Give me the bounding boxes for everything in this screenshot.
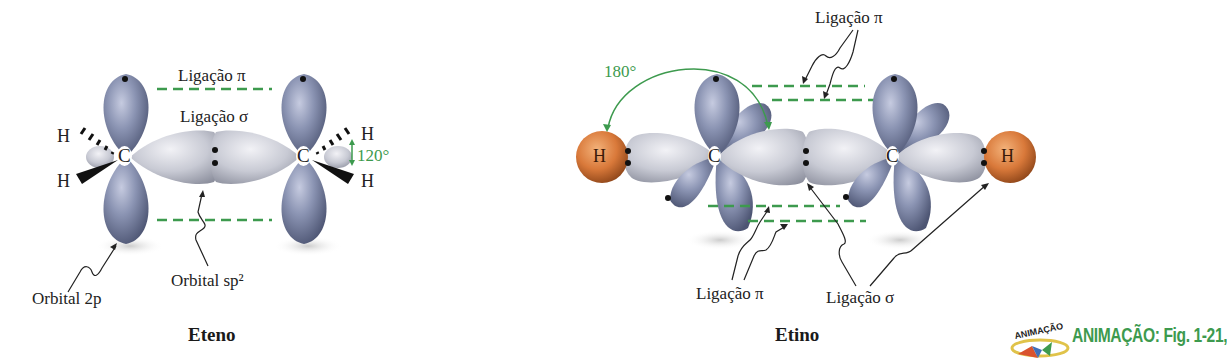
pi-bond-label-bottom: Ligação π xyxy=(696,284,764,304)
pointer-arrow-sp2 xyxy=(196,194,208,266)
pi-bond-label-top: Ligação π xyxy=(815,8,883,28)
animation-link[interactable]: ANIMAÇÃO ANIMAÇÃO: Fig. 1-21, xyxy=(1000,318,1222,360)
orbital-sp2-label: Orbital sp² xyxy=(171,271,244,291)
ethene-caption: Eteno xyxy=(188,324,236,346)
hydrogen-label: H xyxy=(57,171,70,192)
angle-label: 180° xyxy=(604,62,636,82)
carbon-label-left: C xyxy=(117,146,132,166)
carbon-label-left: C xyxy=(708,146,721,166)
animation-link-text[interactable]: ANIMAÇÃO: Fig. 1-21, xyxy=(1072,324,1227,347)
p-orbital-bottom-right xyxy=(282,157,327,244)
electron-dot xyxy=(212,147,218,153)
carbon-label-right: C xyxy=(886,146,899,166)
orbital-2p-label: Orbital 2p xyxy=(32,289,101,309)
carbon-label-right: C xyxy=(296,146,311,166)
ethyne-caption: Etino xyxy=(775,324,819,346)
hydrogen-label: H xyxy=(57,126,70,147)
hydrogen-label-left: H xyxy=(593,146,606,167)
electron-dot xyxy=(300,76,306,82)
electron-dot xyxy=(212,160,218,166)
sp2-orbital-left xyxy=(130,130,220,184)
angle-label: 120° xyxy=(357,146,389,166)
pointer-arrow-pi-top-1 xyxy=(805,30,853,80)
ethyne-diagram: C C H H Ligação π 180° Ligação π Ligação… xyxy=(560,0,1060,360)
pi-bond-label: Ligação π xyxy=(178,66,246,86)
hydrogen-label: H xyxy=(361,171,374,192)
ethene-diagram: C C H H H H Ligação π Ligação σ 120° Orb… xyxy=(0,0,440,360)
electron-dot xyxy=(122,76,128,82)
sp2-orbital-right xyxy=(210,130,300,184)
animation-logo-icon: ANIMAÇÃO xyxy=(1008,320,1072,360)
hydrogen-label-right: H xyxy=(1001,146,1014,167)
sp2-orbital-small xyxy=(324,146,352,168)
hydrogen-label: H xyxy=(361,124,374,145)
p-orbital-bottom-left xyxy=(104,157,149,244)
sigma-bond-label: Ligação σ xyxy=(180,107,248,127)
sigma-bond-label: Ligação σ xyxy=(826,288,894,308)
ethyne-orbital-drawing xyxy=(560,0,1060,360)
